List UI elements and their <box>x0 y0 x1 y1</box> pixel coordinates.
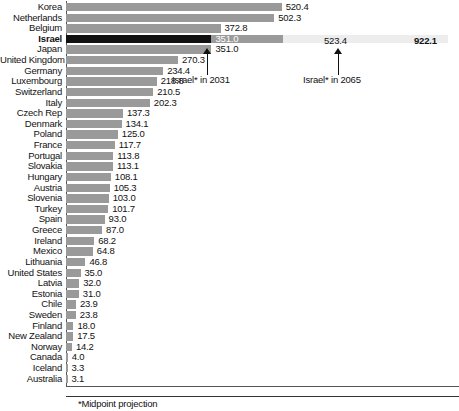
bar-value-label: 134.1 <box>126 119 149 129</box>
bar-value-label: 3.3 <box>72 363 85 373</box>
bar <box>66 364 68 372</box>
bar-value-label: 68.2 <box>98 236 116 246</box>
category-label: Italy <box>0 98 62 108</box>
bar-row: Poland125.0 <box>0 130 459 140</box>
bar-value-label: 137.3 <box>127 108 150 118</box>
category-label: United States <box>0 268 62 278</box>
x-axis-baseline <box>66 386 459 387</box>
bar <box>66 99 150 107</box>
category-label: Iceland <box>0 363 62 373</box>
bar-row: Ireland68.2 <box>0 237 459 247</box>
bar-row: United States35.0 <box>0 269 459 279</box>
projection-2031-value: 523.4 <box>324 36 347 46</box>
bar-row: Norway14.2 <box>0 343 459 353</box>
bar-value-label: 35.0 <box>85 268 103 278</box>
category-label: Latvia <box>0 278 62 288</box>
bar <box>66 205 108 213</box>
bar-value-label: 351.0 <box>215 34 238 44</box>
category-label: Germany <box>0 66 62 76</box>
bar-value-label: 101.7 <box>112 204 135 214</box>
category-label: Belgium <box>0 23 62 33</box>
category-label: Turkey <box>0 204 62 214</box>
category-label: Spain <box>0 214 62 224</box>
bar-value-label: 93.0 <box>109 214 127 224</box>
bar-row: Portugal113.8 <box>0 152 459 162</box>
category-label: Sweden <box>0 310 62 320</box>
bar <box>66 375 68 383</box>
bar-value-label: 372.8 <box>225 23 248 33</box>
category-label: Slovakia <box>0 161 62 171</box>
bar-row: Austria105.3 <box>0 184 459 194</box>
bar <box>66 88 153 96</box>
bar <box>66 130 118 138</box>
footnote-text: *Midpoint projection <box>78 398 157 409</box>
category-label: Hungary <box>0 172 62 182</box>
bar <box>66 194 109 202</box>
category-label: Czech Rep <box>0 108 62 118</box>
bar-value-label: 117.7 <box>119 140 141 150</box>
bar-row: Korea520.4 <box>0 3 459 13</box>
bar-row: Spain93.0 <box>0 215 459 225</box>
bar-value-label: 210.5 <box>157 87 180 97</box>
bar-value-label: 520.4 <box>286 2 309 12</box>
footnote-divider <box>66 396 459 397</box>
bar <box>66 332 73 340</box>
bar-value-label: 18.0 <box>77 321 95 331</box>
bar <box>66 67 163 75</box>
bar <box>66 141 115 149</box>
category-label: Poland <box>0 129 62 139</box>
bar-value-label: 202.3 <box>154 98 177 108</box>
bar <box>66 184 110 192</box>
category-label: Netherlands <box>0 13 62 23</box>
category-label: Greece <box>0 225 62 235</box>
category-label: Australia <box>0 374 62 384</box>
bar-value-label: 113.8 <box>117 151 139 161</box>
bar <box>66 353 68 361</box>
bar-row: Italy202.3 <box>0 99 459 109</box>
bar <box>66 24 221 32</box>
category-label: Austria <box>0 183 62 193</box>
bar-row: Finland18.0 <box>0 322 459 332</box>
bar <box>66 226 102 234</box>
bar-value-label: 113.1 <box>117 161 139 171</box>
bar <box>66 173 111 181</box>
category-label: Ireland <box>0 236 62 246</box>
category-label: Luxembourg <box>0 76 62 86</box>
bar <box>66 56 178 64</box>
category-label: Japan <box>0 44 62 54</box>
bar-highlight <box>66 35 211 43</box>
category-label: Israel <box>0 34 62 44</box>
bar <box>66 300 76 308</box>
bar-row: Denmark134.1 <box>0 120 459 130</box>
category-label: Korea <box>0 2 62 12</box>
bar-row: Japan351.0 <box>0 45 459 55</box>
bar-row: Slovakia113.1 <box>0 162 459 172</box>
bar-value-label: 32.0 <box>83 278 101 288</box>
bar-value-label: 351.0 <box>215 44 238 54</box>
bar <box>66 247 93 255</box>
bar-value-label: 14.2 <box>76 342 94 352</box>
bar-value-label: 23.8 <box>80 310 98 320</box>
bar-row: New Zealand17.5 <box>0 332 459 342</box>
category-label: United Kingdom <box>0 55 62 65</box>
category-label: Norway <box>0 342 62 352</box>
bar-value-label: 502.3 <box>278 13 301 23</box>
category-label: Mexico <box>0 246 62 256</box>
bar-value-label: 87.0 <box>106 225 124 235</box>
bar-row: Greece87.0 <box>0 226 459 236</box>
bar-value-label: 108.1 <box>115 172 138 182</box>
category-label: Switzerland <box>0 87 62 97</box>
bar-value-label: 105.3 <box>114 183 137 193</box>
category-label: Lithuania <box>0 257 62 267</box>
bar-row: Estonia31.0 <box>0 290 459 300</box>
projection-2065-value: 922.1 <box>414 36 437 46</box>
bar-row: Mexico64.8 <box>0 247 459 257</box>
bar-row: Sweden23.8 <box>0 311 459 321</box>
category-label: Slovenia <box>0 193 62 203</box>
bar <box>66 343 72 351</box>
projection-2065-label: Israel* in 2065 <box>303 74 361 85</box>
bar-value-label: 3.1 <box>72 374 85 384</box>
bar-value-label: 125.0 <box>122 129 145 139</box>
bar-row: Iceland3.3 <box>0 364 459 374</box>
category-label: Estonia <box>0 289 62 299</box>
